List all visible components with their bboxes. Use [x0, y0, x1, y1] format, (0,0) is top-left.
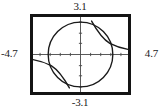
x-max-label: 4.7: [145, 48, 158, 59]
hyperbola-branch-upper-right: [92, 21, 128, 49]
plot-canvas: [33, 17, 128, 92]
plot-frame: [30, 14, 131, 95]
y-min-label: -3.1: [72, 97, 89, 108]
hyperbola-branch-lower-left: [33, 60, 69, 88]
axes-group: [33, 17, 128, 92]
x-min-label: -4.7: [1, 48, 18, 59]
y-max-label: 3.1: [73, 1, 86, 12]
graph-screenshot: 3.1 -4.7 4.7 -3.1: [0, 0, 159, 108]
